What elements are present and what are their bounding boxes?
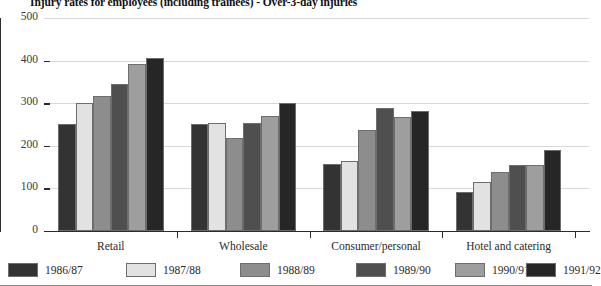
x-axis-tick: [310, 232, 311, 238]
bar: [323, 164, 341, 231]
legend-item[interactable]: 1987/88: [126, 262, 201, 278]
y-axis-tick-label: 400: [0, 54, 38, 66]
y-axis-tick: [44, 61, 50, 62]
bar: [394, 117, 412, 231]
y-axis-tick-label: 300: [0, 96, 38, 108]
bar: [456, 192, 474, 231]
legend-label: 1990/91: [492, 264, 530, 276]
x-axis-group-label: Hotel and catering: [419, 240, 599, 252]
chart-title: Injury rates for employees (including tr…: [30, 0, 357, 8]
bar: [226, 138, 244, 231]
x-axis-line: [44, 231, 590, 232]
x-axis-tick: [442, 232, 443, 238]
bar: [191, 124, 209, 231]
bar: [358, 130, 376, 231]
y-axis-tick: [44, 103, 50, 104]
bar: [208, 123, 226, 231]
bar: [128, 64, 146, 231]
legend-item[interactable]: 1990/91: [455, 262, 530, 278]
bar: [473, 182, 491, 231]
legend-swatch: [240, 263, 270, 277]
y-axis-tick-label: 500: [0, 11, 38, 23]
bar: [341, 161, 359, 231]
bar: [261, 116, 279, 231]
legend-label: 1987/88: [163, 264, 201, 276]
bar: [376, 108, 394, 231]
legend-swatch: [8, 263, 38, 277]
legend-swatch: [455, 263, 485, 277]
bar: [76, 103, 94, 231]
legend-item[interactable]: 1989/90: [356, 262, 431, 278]
bar: [146, 58, 164, 231]
y-axis-tick: [44, 188, 50, 189]
legend-item[interactable]: 1988/89: [240, 262, 315, 278]
bar: [111, 84, 129, 231]
y-axis-tick-label: 0: [0, 224, 38, 236]
y-axis-tick-label: 100: [0, 181, 38, 193]
gridline: [44, 61, 589, 62]
x-axis-tick: [575, 232, 576, 238]
legend-label: 1988/89: [277, 264, 315, 276]
legend-item[interactable]: 1986/87: [8, 262, 83, 278]
gridline: [44, 18, 589, 19]
legend-item[interactable]: 1991/92: [526, 262, 601, 278]
bar: [509, 165, 527, 231]
y-axis-tick-label: 200: [0, 139, 38, 151]
legend-swatch: [526, 263, 556, 277]
legend-swatch: [356, 263, 386, 277]
legend-label: 1991/92: [563, 264, 601, 276]
bar: [58, 124, 76, 231]
bar: [243, 123, 261, 231]
chart-legend: 1986/871987/881988/891989/901990/911991/…: [8, 262, 588, 280]
bar: [93, 96, 111, 231]
bar: [526, 165, 544, 231]
bar: [544, 150, 562, 231]
legend-swatch: [126, 263, 156, 277]
bar: [411, 111, 429, 231]
y-axis-line: [0, 18, 1, 232]
legend-label: 1989/90: [393, 264, 431, 276]
bar: [491, 172, 509, 231]
x-axis-tick: [177, 232, 178, 238]
legend-label: 1986/87: [45, 264, 83, 276]
bar: [279, 103, 297, 231]
y-axis-tick: [44, 146, 50, 147]
